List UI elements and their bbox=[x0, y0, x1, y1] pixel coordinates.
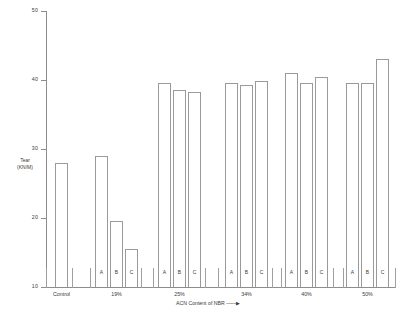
bar-34pct-a bbox=[225, 83, 238, 287]
x-axis-arrow-icon: ——▶ bbox=[226, 300, 239, 306]
y-tick-40 bbox=[41, 80, 46, 81]
x-axis-title: ACN Content of NBR ——▶ bbox=[176, 301, 239, 306]
group-label-control: Control bbox=[40, 292, 84, 297]
bar-sublabel-25pct-A: A bbox=[159, 270, 171, 275]
bar-sublabel-34pct-A: A bbox=[226, 270, 238, 275]
bar-40pct-c bbox=[315, 77, 328, 287]
y-axis-title-line-2: (KN/M) bbox=[8, 164, 42, 171]
bar-sublabel-19pct-C: C bbox=[126, 270, 138, 275]
bar-sublabel-50pct-A: A bbox=[347, 270, 359, 275]
bar-50pct-b bbox=[361, 83, 374, 287]
bar-34pct-b bbox=[240, 85, 253, 287]
bar-40pct-b bbox=[300, 83, 313, 287]
bar-chart: 1020304050 Tear (KN/M) ControlABC19%ABC2… bbox=[0, 0, 401, 312]
group-separator-10 bbox=[343, 268, 344, 288]
bar-sublabel-50pct-C: C bbox=[377, 270, 389, 275]
y-axis-title: Tear (KN/M) bbox=[8, 157, 42, 170]
y-tick-label-10: 10 bbox=[14, 284, 38, 289]
bar-control bbox=[55, 163, 68, 287]
bar-50pct-a bbox=[346, 83, 359, 287]
x-axis-title-text: ACN Content of NBR bbox=[176, 300, 225, 306]
bar-sublabel-19pct-B: B bbox=[111, 270, 123, 275]
group-separator-6 bbox=[218, 268, 219, 288]
y-tick-30 bbox=[41, 149, 46, 150]
bar-sublabel-34pct-C: C bbox=[256, 270, 268, 275]
group-separator-7 bbox=[272, 268, 273, 288]
bar-sublabel-25pct-B: B bbox=[174, 270, 186, 275]
bar-sublabel-40pct-B: B bbox=[301, 270, 313, 275]
bar-sublabel-50pct-B: B bbox=[362, 270, 374, 275]
group-label-25pct: 25% bbox=[158, 292, 202, 297]
group-separator-1 bbox=[72, 268, 73, 288]
bar-25pct-c bbox=[188, 92, 201, 287]
y-axis-line bbox=[46, 11, 47, 288]
bar-sublabel-40pct-A: A bbox=[286, 270, 298, 275]
y-tick-label-20: 20 bbox=[14, 215, 38, 220]
bar-19pct-b bbox=[110, 221, 123, 287]
y-tick-label-40: 40 bbox=[14, 77, 38, 82]
bar-sublabel-19pct-A: A bbox=[96, 270, 108, 275]
group-label-34pct: 34% bbox=[225, 292, 269, 297]
group-separator-0 bbox=[46, 268, 47, 288]
bar-34pct-c bbox=[255, 81, 268, 287]
bar-25pct-b bbox=[173, 90, 186, 287]
bar-19pct-a bbox=[95, 156, 108, 287]
group-label-40pct: 40% bbox=[285, 292, 329, 297]
group-label-19pct: 19% bbox=[95, 292, 139, 297]
bar-25pct-a bbox=[158, 83, 171, 287]
bar-sublabel-40pct-C: C bbox=[316, 270, 328, 275]
group-label-50pct: 50% bbox=[346, 292, 390, 297]
y-tick-20 bbox=[41, 218, 46, 219]
bar-sublabel-34pct-B: B bbox=[241, 270, 253, 275]
group-separator-9 bbox=[333, 268, 334, 288]
bar-40pct-a bbox=[285, 73, 298, 287]
group-separator-4 bbox=[153, 268, 154, 288]
y-tick-50 bbox=[41, 11, 46, 12]
group-separator-8 bbox=[281, 268, 282, 288]
group-separator-11 bbox=[395, 268, 396, 288]
bar-sublabel-25pct-C: C bbox=[189, 270, 201, 275]
y-tick-label-30: 30 bbox=[14, 146, 38, 151]
bar-50pct-c bbox=[376, 59, 389, 287]
group-separator-5 bbox=[205, 268, 206, 288]
group-separator-2 bbox=[90, 268, 91, 288]
group-separator-3 bbox=[141, 268, 142, 288]
y-tick-label-50: 50 bbox=[14, 8, 38, 13]
